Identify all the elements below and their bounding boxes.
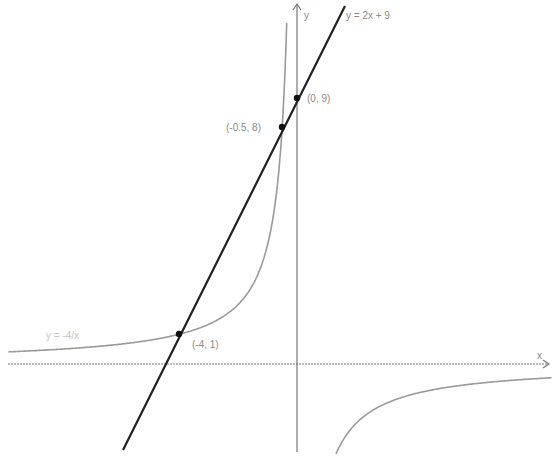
hyperbola-right-branch xyxy=(336,378,552,454)
point-label-neg0.5-8: (-0.5, 8) xyxy=(226,122,261,133)
curve-label: y = -4/x xyxy=(46,330,79,341)
x-axis xyxy=(8,360,549,368)
point-label-0-9: (0, 9) xyxy=(307,93,330,104)
x-axis-label: x xyxy=(537,350,542,361)
y-axis xyxy=(293,4,301,452)
hyperbola-left-branch xyxy=(8,23,286,352)
y-axis-label: y xyxy=(304,10,309,21)
point-neg0.5-8 xyxy=(279,124,285,130)
point-0-9 xyxy=(294,95,300,101)
point-label-neg4-1: (-4, 1) xyxy=(192,339,219,350)
line-y-2x-plus-9 xyxy=(123,6,345,450)
line-label: y = 2x + 9 xyxy=(346,10,390,21)
function-graph xyxy=(0,0,558,462)
point-neg4-1 xyxy=(176,331,182,337)
